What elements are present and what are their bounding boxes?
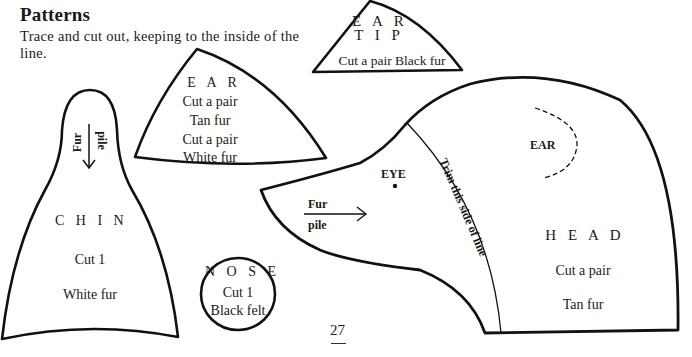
chin-name: C H I N (55, 213, 125, 229)
head-eye-marker-label: EYE (381, 167, 406, 182)
head-ear-marker-label: EAR (530, 138, 555, 153)
chin-fur-label: Fur (70, 133, 85, 152)
head-count: Cut a pair (543, 263, 623, 279)
head-name: H E A D (545, 227, 625, 244)
nose-count: Cut 1 (203, 285, 273, 301)
head-material: Tan fur (543, 297, 623, 313)
ear-tip-instruction: Cut a pair Black fur (322, 53, 462, 69)
ear-line2: Tan fur (170, 113, 250, 129)
page-title: Patterns (20, 4, 90, 26)
page-number-underline (331, 343, 346, 344)
ear-line1: Cut a pair (170, 94, 250, 110)
chin-material: White fur (45, 287, 135, 303)
eye-dot-icon (393, 184, 397, 188)
head-pile-label: pile (308, 218, 327, 233)
intro-text: Trace and cut out, keeping to the inside… (20, 28, 320, 62)
ear-line3: Cut a pair (170, 132, 250, 148)
ear-line4: White fur (170, 150, 250, 166)
page-number: 27 (330, 322, 345, 339)
ear-tip-name-line2: T I P (354, 27, 404, 44)
chin-count: Cut 1 (55, 252, 125, 268)
head-fur-label: Fur (308, 197, 327, 212)
chin-pile-label: pile (94, 131, 109, 150)
ear-name: E A R (184, 75, 244, 91)
head-trim-line (407, 123, 501, 333)
nose-name: N O S E (205, 264, 275, 280)
nose-material: Black felt (198, 303, 278, 319)
